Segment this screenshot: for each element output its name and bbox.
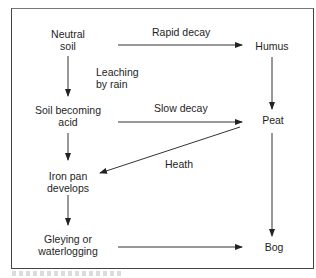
- node-iron-pan-line1: Iron pan: [38, 170, 98, 182]
- node-iron-pan: Iron pan develops: [38, 170, 98, 194]
- node-soil-acid-line1: Soil becoming: [30, 104, 106, 116]
- label-leaching-line1: Leaching: [96, 66, 139, 78]
- label-heath: Heath: [165, 158, 193, 170]
- node-gleying-line2: waterlogging: [30, 245, 106, 257]
- node-neutral-soil: Neutral soil: [40, 28, 96, 52]
- node-soil-becoming-acid: Soil becoming acid: [30, 104, 106, 128]
- label-rapid-decay: Rapid decay: [152, 26, 210, 38]
- node-neutral-soil-line1: Neutral: [40, 28, 96, 40]
- node-bog-line1: Bog: [256, 241, 292, 253]
- node-humus: Humus: [248, 40, 296, 52]
- label-slow-decay: Slow decay: [154, 102, 208, 114]
- node-neutral-soil-line2: soil: [40, 40, 96, 52]
- node-peat: Peat: [253, 114, 293, 126]
- caption-faint-text: [12, 271, 122, 276]
- node-gleying: Gleying or waterlogging: [30, 233, 106, 257]
- node-iron-pan-line2: develops: [38, 182, 98, 194]
- node-peat-line1: Peat: [253, 114, 293, 126]
- node-gleying-line1: Gleying or: [30, 233, 106, 245]
- label-leaching: Leaching by rain: [96, 66, 139, 90]
- node-bog: Bog: [256, 241, 292, 253]
- node-soil-acid-line2: acid: [30, 116, 106, 128]
- node-humus-line1: Humus: [248, 40, 296, 52]
- label-leaching-line2: by rain: [96, 78, 139, 90]
